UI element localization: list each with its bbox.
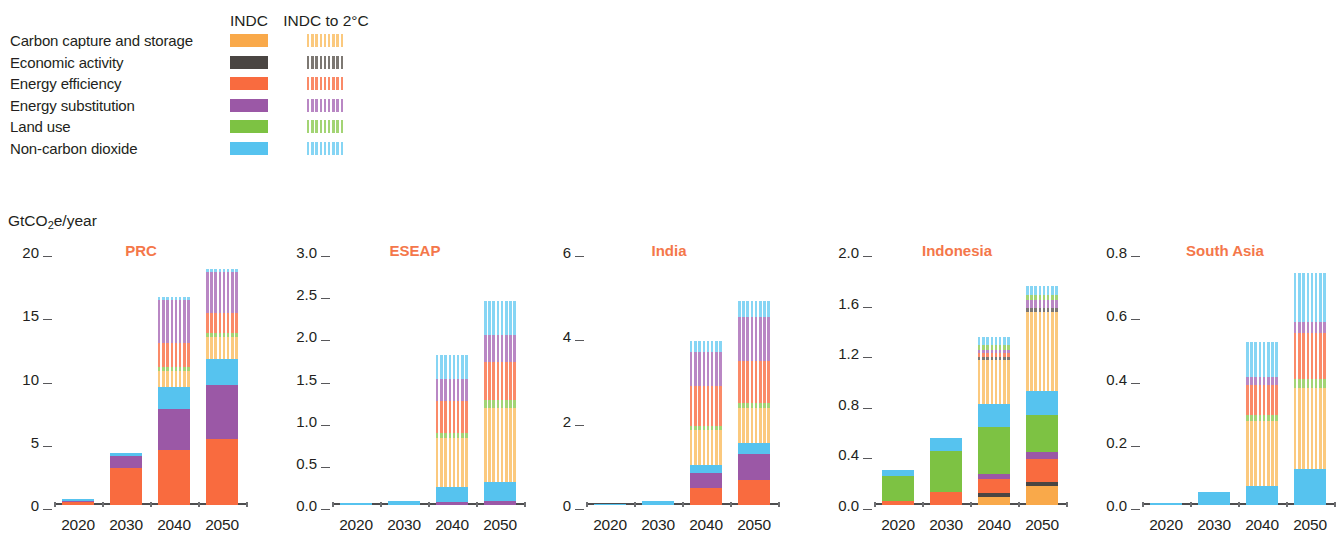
bar-segment-eff <box>1026 459 1058 481</box>
bar-segment-ccs <box>158 371 190 387</box>
panel-south-asia: South Asia0.00.20.40.60.8202020302040205… <box>1086 236 1340 536</box>
bar-segment-nco2 <box>1026 391 1058 416</box>
y-axis-tick-label: 1.2 <box>838 345 859 362</box>
legend-swatch-striped-land <box>307 120 345 133</box>
y-axis-tick-dash <box>1131 383 1140 384</box>
bar-segment-sub <box>1026 300 1058 308</box>
bar-segment-sub <box>1026 452 1058 460</box>
bar-segment-sub <box>158 300 190 343</box>
x-axis-tickmark <box>1238 502 1240 507</box>
legend-item-ccs: Carbon capture and storage <box>0 30 380 52</box>
stacked-bar-2050[interactable] <box>1294 273 1326 505</box>
bar-segment-eff <box>158 450 190 505</box>
stacked-bar-2020[interactable] <box>62 499 94 505</box>
panel-title: India <box>594 242 744 259</box>
bar-segment-ccs <box>738 408 770 443</box>
legend-swatch-solid-eff <box>230 77 268 90</box>
y-axis-tick-label: 0 <box>31 497 39 514</box>
y-axis-tick: 20 <box>8 245 52 260</box>
stacked-bar-2040[interactable] <box>1246 342 1278 505</box>
bar-segment-eff <box>1246 385 1278 415</box>
y-axis-tick: 0.0 <box>276 498 330 513</box>
y-axis-tick-label: 2.0 <box>296 328 317 345</box>
bar-segment-ccs <box>1026 312 1058 390</box>
stacked-bar-2050[interactable] <box>206 268 238 505</box>
y-axis-tick-label: 10 <box>22 371 39 388</box>
panel-title: South Asia <box>1150 242 1300 259</box>
bar-segment-eff <box>1294 333 1326 379</box>
bar-segment-ccs <box>206 337 238 359</box>
stacked-bar-2030[interactable] <box>930 438 962 505</box>
x-axis-tickmark <box>1334 502 1336 507</box>
legend-swatch-striped-econ <box>307 56 345 69</box>
stacked-bar-2030[interactable] <box>642 501 674 505</box>
y-axis-tick: 0.8 <box>1086 245 1140 260</box>
legend-item-label: Land use <box>0 118 218 135</box>
legend-swatch-indc-wrap <box>218 99 280 112</box>
stacked-bar-2020[interactable] <box>340 503 372 505</box>
bar-segment-sub <box>436 502 468 505</box>
x-axis-tickmark <box>54 502 56 507</box>
stacked-bar-2050[interactable] <box>1026 286 1058 505</box>
stacked-bar-2030[interactable] <box>388 501 420 505</box>
x-axis-label-2050: 2050 <box>188 516 256 534</box>
stacked-bar-2040[interactable] <box>978 337 1010 505</box>
bar-segment-land <box>484 400 516 408</box>
bar-segment-eff <box>436 401 468 433</box>
legend-swatch-solid-sub <box>230 99 268 112</box>
y-axis-tick-dash <box>863 256 872 257</box>
x-axis-tickmark <box>1018 502 1020 507</box>
x-axis-tickmark <box>634 502 636 507</box>
x-axis-tickmark <box>970 502 972 507</box>
x-axis-tickmark <box>332 502 334 507</box>
bar-segment-eff <box>206 439 238 505</box>
bar-segment-sub <box>110 456 142 468</box>
bar-segment-eff <box>484 362 516 401</box>
stacked-bar-2030[interactable] <box>110 453 142 505</box>
x-axis-tickmark <box>778 502 780 507</box>
bar-segment-nco2 <box>1150 503 1182 505</box>
y-axis-tick-label: 0.8 <box>1106 244 1127 261</box>
bar-segment-nco2 <box>690 341 722 352</box>
bar-segment-nco2 <box>436 487 468 501</box>
stacked-bar-2030[interactable] <box>1198 492 1230 505</box>
legend-header: INDC INDC to 2°C <box>0 6 380 30</box>
bar-segment-sub <box>738 454 770 480</box>
y-axis-tick-dash <box>1131 256 1140 257</box>
bar-segment-land <box>882 476 914 501</box>
stacked-bar-2040[interactable] <box>158 297 190 505</box>
y-axis-tick-label: 0.4 <box>1106 371 1127 388</box>
legend: INDC INDC to 2°C Carbon capture and stor… <box>0 6 380 159</box>
y-axis-tick-label: 1.5 <box>296 371 317 388</box>
x-axis-tickmark <box>1142 502 1144 507</box>
y-axis-tick: 0.4 <box>818 447 872 462</box>
y-axis-tick: 10 <box>8 372 52 387</box>
bar-segment-nco2 <box>738 443 770 454</box>
stacked-bar-2020[interactable] <box>882 470 914 505</box>
stacked-bar-2050[interactable] <box>738 301 770 506</box>
y-axis-tick: 1.0 <box>276 414 330 429</box>
y-axis-tick-dash <box>321 425 330 426</box>
panel-eseap: ESEAP0.00.51.01.52.02.53.020202030204020… <box>276 236 544 536</box>
y-axis-tick: 0.6 <box>1086 308 1140 323</box>
stacked-bar-2020[interactable] <box>1150 503 1182 505</box>
y-axis-tick-dash <box>321 340 330 341</box>
stacked-bar-2050[interactable] <box>484 301 516 505</box>
legend-swatch-striped-nco2 <box>307 142 345 155</box>
y-axis-tick-dash <box>863 458 872 459</box>
bar-segment-eff <box>882 501 914 505</box>
bar-segment-sub <box>436 379 468 402</box>
legend-item-eff: Energy efficiency <box>0 73 380 95</box>
legend-swatch-indc2c-wrap <box>280 120 372 133</box>
y-axis-tick-label: 0.8 <box>838 396 859 413</box>
y-axis-tick: 0.0 <box>1086 498 1140 513</box>
legend-swatch-solid-econ <box>230 56 268 69</box>
bar-segment-nco2 <box>1026 286 1058 295</box>
bar-segment-sub <box>738 317 770 362</box>
stacked-bar-2040[interactable] <box>436 355 468 505</box>
bar-segment-nco2 <box>738 301 770 317</box>
stacked-bar-2040[interactable] <box>690 341 722 505</box>
stacked-bar-2020[interactable] <box>594 504 626 505</box>
bar-segment-sub <box>158 409 190 450</box>
bar-segment-nco2 <box>484 482 516 501</box>
